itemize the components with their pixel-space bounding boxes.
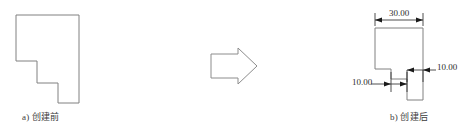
caption-after: b) 创建后 (390, 110, 428, 123)
technical-drawing-figure: 30.00 10.00 10.00 a) 创建前 b) 创建后 (0, 0, 470, 135)
caption-before: a) 创建前 (22, 110, 59, 123)
dimension-left-offset (371, 72, 407, 92)
dimension-label-left-offset: 10.00 (352, 77, 372, 87)
dimension-label-right-offset: 10.00 (437, 62, 457, 72)
staircase-polygon-before (16, 15, 79, 103)
right-arrow-icon (211, 48, 257, 84)
staircase-polygon-after (375, 28, 423, 100)
dimension-right-offset (407, 67, 436, 82)
dimension-label-top-width: 30.00 (389, 8, 409, 18)
